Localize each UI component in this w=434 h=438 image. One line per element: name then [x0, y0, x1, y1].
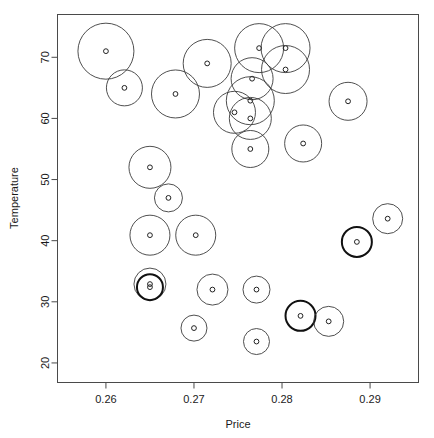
- y-tick-label: 60: [40, 112, 52, 124]
- y-tick-label: 30: [40, 296, 52, 308]
- bubble-scatter-plot: 0.260.270.280.29 203040506070 Price Temp…: [0, 0, 434, 438]
- x-axis-title: Price: [225, 418, 250, 430]
- plot-background: [0, 0, 434, 438]
- x-tick-label: 0.28: [271, 393, 292, 405]
- x-tick-label: 0.27: [183, 393, 204, 405]
- x-tick-label: 0.29: [359, 393, 380, 405]
- y-tick-label: 20: [40, 357, 52, 369]
- chart-canvas: 0.260.270.280.29 203040506070 Price Temp…: [0, 0, 434, 438]
- y-tick-label: 50: [40, 173, 52, 185]
- x-tick-label: 0.26: [95, 393, 116, 405]
- y-tick-label: 40: [40, 235, 52, 247]
- y-tick-label: 70: [40, 51, 52, 63]
- y-axis-title: Temperature: [8, 167, 20, 229]
